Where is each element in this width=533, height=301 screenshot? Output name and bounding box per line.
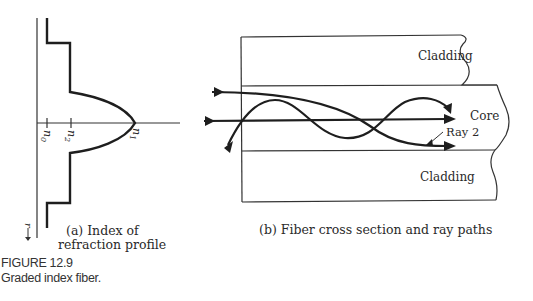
panel-a-caption-line2: refraction profile xyxy=(58,237,166,252)
svg-text:n2: n2 xyxy=(63,130,78,142)
label-core: Core xyxy=(470,109,499,123)
label-cladding-top: Cladding xyxy=(418,49,473,63)
ray-arrow-top-exit xyxy=(444,141,456,151)
ray-arrow-top-entry xyxy=(214,87,224,97)
svg-text:n1: n1 xyxy=(128,128,143,140)
r-direction-arrow: r xyxy=(23,223,34,241)
figure-number: FIGURE 12.9 xyxy=(1,256,101,271)
ray-path-axial xyxy=(204,119,448,121)
figure-caption: FIGURE 12.9 Graded index fiber. xyxy=(1,256,101,286)
core-bottom-boundary xyxy=(242,150,495,151)
label-n1: n1 xyxy=(128,128,143,140)
label-ray2: Ray 2 xyxy=(446,125,479,139)
index-profile-plot: n0 n2 n1 r (a) Index of refraction profi… xyxy=(23,18,180,252)
label-n0: n0 xyxy=(39,130,54,142)
svg-text:n0: n0 xyxy=(39,130,54,142)
figure-title: Graded index fiber. xyxy=(1,271,101,286)
panel-a-caption-line1: (a) Index of xyxy=(66,223,140,238)
cladding-bottom-edge xyxy=(242,200,496,202)
core-top-boundary xyxy=(241,85,497,86)
cladding-top-edge xyxy=(241,35,461,37)
ray-arrow-axial-entry xyxy=(205,116,215,126)
fiber-cross-section: Cladding Core Cladding Ray 2 (b) Fiber c… xyxy=(204,35,509,237)
panel-b-caption: (b) Fiber cross section and ray paths xyxy=(259,222,492,237)
label-cladding-bottom: Cladding xyxy=(420,170,475,184)
label-n2: n2 xyxy=(63,130,78,142)
ray-arrow-axial-exit xyxy=(444,114,456,124)
